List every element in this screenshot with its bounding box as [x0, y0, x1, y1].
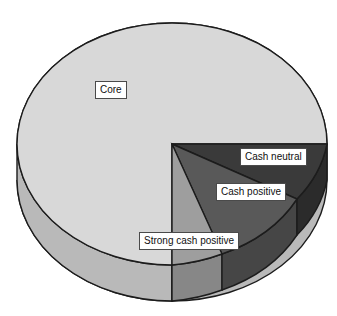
slice-label-cash-neutral: Cash neutral [240, 148, 307, 166]
slice-label-strong-cash-positive: Strong cash positive [139, 232, 239, 250]
slice-label-core: Core [95, 81, 127, 99]
pie-chart: Core Cash neutral Cash positive Strong c… [0, 0, 337, 316]
slice-label-cash-positive: Cash positive [216, 183, 286, 201]
